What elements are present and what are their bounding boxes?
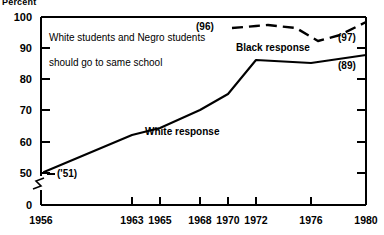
- callout-black-1980-value: (97): [338, 32, 356, 43]
- y-axis-break-zigzag: [33, 178, 44, 189]
- chart-container: Percent 100 90 80 70 60 50 0 1956 1963 1…: [0, 0, 384, 235]
- series-label-white-response: White response: [145, 126, 219, 137]
- chart-title-line-1: White students and Negro students: [49, 32, 249, 45]
- callout-white-1980-value: (89): [338, 60, 356, 71]
- callout-black-1970-value: (96): [196, 21, 214, 32]
- y-axis-ticks-right: [357, 48, 366, 173]
- series-label-black-response: Black response: [236, 42, 310, 53]
- callout-first-year-1951: ('51): [57, 168, 77, 179]
- x-axis-ticks: [132, 197, 311, 205]
- chart-title-box: White students and Negro students should…: [49, 19, 249, 82]
- chart-title-line-2: should go to same school: [49, 57, 249, 70]
